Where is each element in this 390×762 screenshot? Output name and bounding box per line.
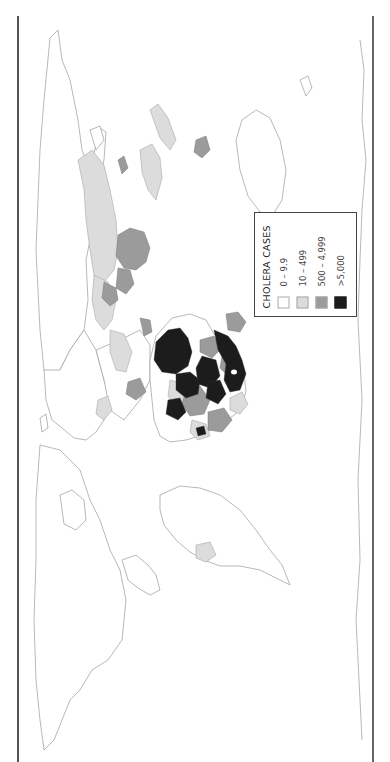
- legend-label: 0 – 9.9: [278, 257, 288, 286]
- australia: [236, 110, 286, 216]
- legend-label: 10 – 499: [297, 249, 307, 286]
- legend-label: 500 – 4,999: [316, 236, 326, 286]
- region-philippines: [118, 156, 128, 174]
- legend-item-over-5000: >5,000: [333, 213, 347, 308]
- legend-item-10-499: 10 – 499: [295, 213, 309, 308]
- region-png: [194, 136, 210, 158]
- swatch-light-gray: [296, 296, 308, 308]
- swatch-mid-gray: [315, 296, 327, 308]
- legend: CHOLERA CASES 0 – 9.9 10 – 499 500 – 4,9…: [254, 212, 357, 317]
- region-indonesia: [150, 104, 176, 150]
- north-america: [34, 445, 126, 750]
- legend-label: >5,000: [335, 255, 345, 286]
- world-map: [0, 0, 390, 762]
- region-pakistan: [116, 268, 134, 294]
- swatch-white: [277, 296, 289, 308]
- region-africa-coast-black: [196, 426, 206, 436]
- region-madagascar: [226, 312, 246, 332]
- lake-victoria: [231, 370, 237, 375]
- legend-title: CHOLERA CASES: [260, 213, 271, 308]
- antarctica-edge: [356, 40, 366, 740]
- legend-item-500-4999: 500 – 4,999: [314, 213, 328, 308]
- iceland: [40, 414, 48, 432]
- swatch-black: [334, 296, 346, 308]
- south-america: [160, 486, 290, 585]
- legend-item-0-9.9: 0 – 9.9: [276, 213, 290, 308]
- region-southeast-asia: [140, 144, 162, 200]
- region-india: [116, 228, 150, 270]
- new-zealand: [300, 76, 312, 96]
- central-america: [122, 555, 160, 595]
